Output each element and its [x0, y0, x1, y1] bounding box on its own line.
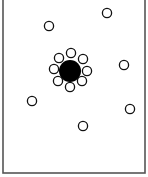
ring-particle — [54, 53, 63, 62]
free-particle — [125, 104, 134, 113]
ring-particle — [66, 48, 75, 57]
ring-particle — [77, 76, 86, 85]
free-particle — [44, 21, 53, 30]
free-particles — [27, 8, 134, 130]
ring-particle — [65, 82, 74, 91]
free-particle — [27, 96, 36, 105]
free-particle — [119, 60, 128, 69]
central-solid-particle — [59, 60, 81, 82]
ring-particle — [78, 54, 87, 63]
ring-particle — [82, 66, 91, 75]
free-particle — [102, 8, 111, 17]
ring-particle — [53, 76, 62, 85]
particle-diagram — [0, 0, 148, 177]
free-particle — [78, 121, 87, 130]
ring-particle — [49, 64, 58, 73]
